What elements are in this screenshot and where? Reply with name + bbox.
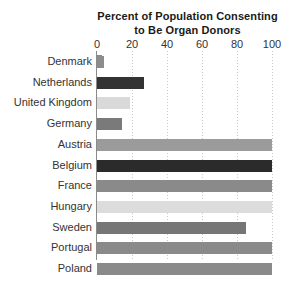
category-label: Portugal — [0, 241, 92, 253]
category-label: Poland — [0, 262, 92, 274]
bar — [97, 242, 272, 254]
bar-row — [97, 97, 272, 109]
plot-area — [97, 55, 272, 260]
bar-row — [97, 242, 272, 254]
bar-row — [97, 139, 272, 151]
x-tick-label: 0 — [94, 38, 100, 50]
bar-row — [97, 160, 272, 172]
bar — [97, 139, 272, 151]
x-tick-label: 20 — [126, 38, 138, 50]
category-axis-labels: DenmarkNetherlandsUnited KingdomGermanyA… — [0, 55, 92, 260]
bar — [97, 118, 122, 130]
chart-title-line-2: to Be Organ Donors — [80, 23, 295, 37]
category-label: Sweden — [0, 221, 92, 233]
bar-row — [97, 263, 272, 275]
category-label: Hungary — [0, 200, 92, 212]
x-tick-label: 60 — [196, 38, 208, 50]
x-axis-tick-labels: 020406080100 — [97, 38, 272, 52]
bar — [97, 263, 272, 275]
bar-row — [97, 180, 272, 192]
x-tick-label: 100 — [263, 38, 281, 50]
bar — [97, 56, 104, 68]
bar-row — [97, 118, 272, 130]
bar — [97, 97, 130, 109]
chart-title-line-1: Percent of Population Consenting — [80, 9, 295, 23]
x-tick-label: 80 — [231, 38, 243, 50]
bar-row — [97, 77, 272, 89]
bar — [97, 180, 272, 192]
category-label: Netherlands — [0, 76, 92, 88]
category-label: France — [0, 179, 92, 191]
bar-row — [97, 201, 272, 213]
category-label: Denmark — [0, 55, 92, 67]
bar — [97, 160, 272, 172]
x-tick-label: 40 — [161, 38, 173, 50]
bar — [97, 222, 246, 234]
bar — [97, 77, 144, 89]
chart-title: Percent of Population Consenting to Be O… — [80, 9, 295, 37]
category-label: Belgium — [0, 159, 92, 171]
bar-row — [97, 56, 272, 68]
bar-chart-figure: Percent of Population Consenting to Be O… — [0, 0, 302, 303]
gridline — [272, 51, 273, 260]
bar — [97, 201, 272, 213]
category-label: United Kingdom — [0, 96, 92, 108]
category-label: Germany — [0, 117, 92, 129]
bar-row — [97, 222, 272, 234]
category-label: Austria — [0, 138, 92, 150]
